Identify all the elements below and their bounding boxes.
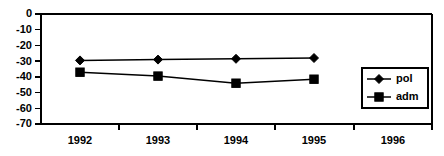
legend-item-label: adm bbox=[396, 90, 419, 102]
x-tick-label: 1996 bbox=[381, 134, 405, 146]
chart-canvas: 0 -10 -20 -30 -40 -50 -60 -70 1992 1993 … bbox=[0, 0, 444, 156]
y-tick-label: -20 bbox=[16, 39, 32, 51]
series-adm-marker bbox=[232, 79, 240, 87]
chart-legend: pol adm bbox=[362, 68, 428, 108]
y-tick-label: -10 bbox=[16, 23, 32, 35]
y-tick-label: -50 bbox=[16, 86, 32, 98]
y-axis-ticks bbox=[35, 14, 41, 124]
series-adm-marker bbox=[310, 75, 318, 83]
series-adm-marker bbox=[154, 72, 162, 80]
series-adm-marker bbox=[76, 68, 84, 76]
y-tick-label: -60 bbox=[16, 102, 32, 114]
y-tick-label: -70 bbox=[16, 117, 32, 129]
x-tick-label: 1993 bbox=[146, 134, 170, 146]
x-axis-ticks bbox=[119, 124, 432, 130]
legend-item-label: pol bbox=[396, 72, 413, 84]
y-axis-labels: 0 -10 -20 -30 -40 -50 -60 -70 bbox=[16, 7, 32, 129]
x-tick-label: 1994 bbox=[224, 134, 249, 146]
x-tick-label: 1992 bbox=[68, 134, 92, 146]
x-tick-label: 1995 bbox=[302, 134, 326, 146]
x-axis-labels: 1992 1993 1994 1995 1996 bbox=[68, 134, 405, 146]
square-marker-icon bbox=[375, 93, 383, 101]
y-tick-label: 0 bbox=[26, 7, 32, 19]
y-tick-label: -40 bbox=[16, 70, 32, 82]
line-chart: 0 -10 -20 -30 -40 -50 -60 -70 1992 1993 … bbox=[0, 0, 444, 156]
y-tick-label: -30 bbox=[16, 55, 32, 67]
